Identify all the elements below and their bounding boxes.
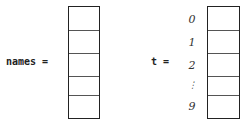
array-divider (208, 95, 239, 96)
index-label: 1 (186, 36, 198, 49)
array-divider (69, 30, 99, 31)
index-label: 9 (186, 100, 198, 113)
ellipsis-label: ⋮ (186, 80, 198, 90)
array-divider (69, 76, 99, 77)
array-divider (69, 53, 99, 54)
array-divider (208, 53, 239, 54)
names-label: names = (6, 56, 48, 67)
names-array (68, 6, 100, 119)
index-label: 2 (186, 59, 198, 72)
array-divider (208, 30, 239, 31)
array-divider (69, 95, 99, 96)
array-divider (208, 76, 239, 77)
t-label: t = (151, 56, 169, 67)
t-array (207, 6, 240, 119)
index-label: 0 (186, 13, 198, 26)
